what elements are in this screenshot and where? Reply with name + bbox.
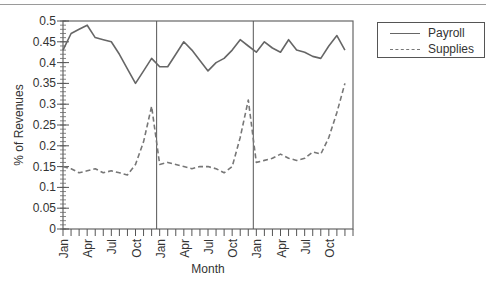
legend: Payroll Supplies (377, 22, 485, 58)
plot-border (63, 21, 353, 229)
y-tick-label: 0 (49, 222, 56, 236)
x-tick-label: Jan (57, 239, 71, 258)
y-tick-label: 0.5 (39, 14, 56, 28)
supplies-line (63, 83, 345, 174)
series-lines (63, 25, 345, 175)
payroll-line (63, 25, 345, 83)
y-tick-label: 0.15 (33, 160, 57, 174)
x-tick-label: Jan (250, 239, 264, 258)
x-tick-label: Oct (323, 238, 337, 257)
dashed-line-icon (390, 49, 420, 50)
x-tick-label: Jul (299, 239, 313, 254)
x-tick-label: Oct (130, 238, 144, 257)
x-tick-label: Jan (154, 239, 168, 258)
x-tick-label: Apr (178, 239, 192, 258)
legend-label: Payroll (428, 26, 465, 40)
x-tick-label: Apr (275, 239, 289, 258)
legend-item-payroll: Payroll (378, 25, 465, 41)
y-tick-label: 0.2 (39, 139, 56, 153)
year-separators (157, 21, 254, 229)
y-tick-label: 0.3 (39, 97, 56, 111)
y-tick-label: 0.35 (33, 76, 57, 90)
x-tick-label: Jul (105, 239, 119, 254)
y-tick-label: 0.25 (33, 118, 57, 132)
legend-item-supplies: Supplies (378, 41, 474, 57)
y-axis-title: % of Revenues (12, 84, 26, 165)
solid-line-icon (390, 33, 420, 34)
x-tick-label: Apr (81, 239, 95, 258)
x-axis-title: Month (191, 262, 224, 276)
plot-frame (63, 21, 353, 229)
y-tick-label: 0.45 (33, 35, 57, 49)
legend-label: Supplies (428, 42, 474, 56)
x-tick-label: Jul (202, 239, 216, 254)
x-tick-label: Oct (226, 238, 240, 257)
y-tick-label: 0.4 (39, 56, 56, 70)
y-tick-label: 0.05 (33, 201, 57, 215)
y-tick-label: 0.1 (39, 180, 56, 194)
x-axis: JanAprJulOctJanAprJulOctJanAprJulOct (57, 229, 353, 258)
